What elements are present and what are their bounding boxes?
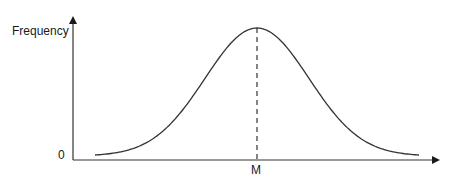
y-axis-label: Frequency xyxy=(12,24,69,38)
mean-label: M xyxy=(251,163,261,177)
origin-label: 0 xyxy=(58,148,65,162)
